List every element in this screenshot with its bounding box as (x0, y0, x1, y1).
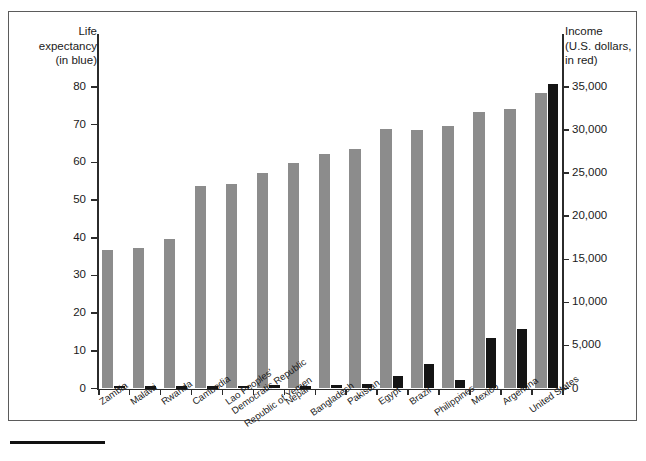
right-axis-tick-label: 5,000 (572, 339, 601, 351)
x-axis-tick (407, 389, 409, 395)
left-axis-tick-label: 80 (50, 81, 86, 93)
left-axis-tick (91, 162, 97, 164)
bar-life-expectancy (504, 109, 516, 389)
bar-life-expectancy (319, 154, 331, 388)
x-axis-tick (500, 389, 502, 395)
left-axis-tick (91, 275, 97, 277)
x-axis-tick (253, 389, 255, 395)
left-axis-line (97, 34, 99, 390)
bar-life-expectancy (380, 129, 392, 388)
right-axis-tick-label: 15,000 (572, 253, 607, 265)
bar-life-expectancy (411, 130, 423, 388)
left-axis-title: Life expectancy (in blue) (21, 24, 97, 68)
x-axis-tick (191, 389, 193, 395)
left-axis-tick-label: 70 (50, 119, 86, 131)
x-axis-tick (284, 389, 286, 395)
left-axis-tick-label: 20 (50, 307, 86, 319)
x-axis-tick (438, 389, 440, 395)
right-axis-tick (563, 86, 569, 88)
right-axis-tick (563, 259, 569, 261)
bar-life-expectancy (473, 112, 485, 389)
left-axis-tick-label: 30 (50, 269, 86, 281)
right-axis-tick-label: 30,000 (572, 124, 607, 136)
bar-life-expectancy (226, 184, 238, 388)
right-axis-tick (563, 215, 569, 217)
x-axis-tick (98, 389, 100, 395)
bar-life-expectancy (102, 250, 114, 388)
plot-area: 01020304050607080 05,00010,00015,00020,0… (98, 34, 562, 390)
left-axis-tick (91, 199, 97, 201)
right-axis-tick (563, 172, 569, 174)
x-axis-tick (345, 389, 347, 395)
bar-life-expectancy (164, 239, 176, 389)
bar-life-expectancy (133, 248, 145, 389)
bar-life-expectancy (535, 93, 547, 388)
left-axis-tick-label: 50 (50, 194, 86, 206)
bar-income (548, 84, 559, 389)
left-axis-tick (91, 237, 97, 239)
x-axis-tick (376, 389, 378, 395)
x-axis-tick (129, 389, 131, 395)
right-axis-tick (563, 345, 569, 347)
left-axis-tick-label: 60 (50, 156, 86, 168)
bar-life-expectancy (257, 173, 269, 388)
x-axis-tick (469, 389, 471, 395)
left-axis-tick (91, 350, 97, 352)
bar-life-expectancy (349, 149, 361, 389)
left-axis-tick (91, 86, 97, 88)
x-axis-tick (160, 389, 162, 395)
left-axis-tick-label: 10 (50, 345, 86, 357)
x-axis-tick (222, 389, 224, 395)
left-axis-tick (91, 388, 97, 390)
right-axis-tick (563, 302, 569, 304)
left-axis-tick-label: 40 (50, 232, 86, 244)
x-axis-tick (531, 389, 533, 395)
x-axis-tick (315, 389, 317, 395)
right-axis-tick (563, 129, 569, 131)
right-axis-tick-label: 35,000 (572, 81, 607, 93)
footnote-separator-rule (10, 441, 105, 444)
right-axis-tick-label: 10,000 (572, 296, 607, 308)
right-axis-tick-label: 25,000 (572, 167, 607, 179)
left-axis-tick-label: 0 (50, 383, 86, 395)
bar-life-expectancy (195, 186, 207, 388)
chart-frame: Life expectancy (in blue) Income (U.S. d… (8, 11, 637, 421)
bar-life-expectancy (442, 126, 454, 388)
right-axis-title: Income (U.S. dollars, in red) (565, 24, 646, 68)
x-axis-tick (562, 389, 564, 395)
right-axis-tick-label: 20,000 (572, 210, 607, 222)
left-axis-tick (91, 124, 97, 126)
left-axis-tick (91, 312, 97, 314)
